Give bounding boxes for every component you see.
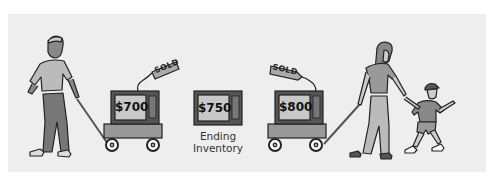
caption-line-1: Ending — [188, 130, 248, 142]
tv-2-price: $750 — [198, 101, 229, 115]
man-figure — [28, 36, 79, 157]
tv-1-price: $700 — [115, 100, 146, 114]
tv-1 — [111, 62, 179, 124]
tv-3-price: $800 — [279, 100, 310, 114]
caption-line-2: Inventory — [188, 142, 248, 154]
child-figure — [404, 84, 455, 154]
ending-inventory-caption: Ending Inventory — [188, 130, 248, 154]
woman-figure — [350, 42, 406, 159]
